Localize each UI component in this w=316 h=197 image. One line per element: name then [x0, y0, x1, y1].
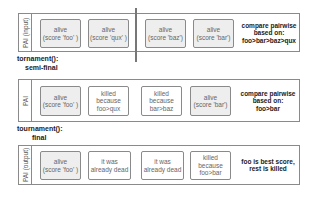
cell-qux: alive (score 'qux' )	[88, 19, 129, 48]
cell-text: killed because foo>qux	[96, 90, 121, 113]
cell-bar: alive (score 'bar')	[190, 86, 231, 116]
cell-foo: alive (score 'foo' )	[40, 151, 81, 180]
caption-semi-final-stage: semi-final	[25, 64, 58, 71]
cell-bar: alive (score 'bar')	[193, 19, 234, 48]
cell-text: killed because bar>baz	[149, 90, 174, 113]
cell-text: alive (score 'bar')	[197, 26, 231, 41]
cell-text: alive (score 'bar')	[194, 94, 228, 109]
row-input: PAI (input) alive (score 'foo' ) alive (…	[18, 13, 300, 52]
cell-text: alive (score 'foo' )	[43, 26, 78, 41]
cell-bar: killed because foo>bar	[190, 151, 231, 180]
cell-text: alive (score 'foo' )	[43, 158, 78, 173]
row-note: foo is best score, rest is killed	[235, 149, 301, 181]
row-note: compare pairwise based on: foo>bar	[235, 84, 301, 118]
cell-text: it was already dead	[91, 158, 129, 173]
cell-qux: it was already dead	[88, 151, 131, 180]
row-label-text: PAI	[22, 96, 29, 106]
caption-semi-final-fn: tornament():	[17, 55, 58, 62]
cell-text: killed because foo>bar	[198, 154, 223, 177]
cell-text: it was already dead	[144, 158, 182, 173]
cell-text: alive (score 'qux' )	[90, 26, 127, 41]
row-semi-final: PAI alive (score 'foo' ) killed because …	[18, 79, 300, 122]
note-text: foo is best score, rest is killed	[241, 158, 294, 173]
caption-final-stage: final	[32, 134, 46, 141]
row-label-output: PAI (output)	[19, 146, 32, 184]
cell-baz: killed because bar>baz	[141, 86, 182, 116]
cell-baz: alive (score 'baz')	[145, 19, 186, 48]
split-divider	[135, 8, 137, 62]
row-label-text: PAI (output)	[22, 148, 29, 182]
cell-baz: it was already dead	[141, 151, 184, 180]
row-label-semi: PAI	[19, 80, 32, 121]
row-label-input: PAI (input)	[19, 14, 32, 51]
cell-foo: alive (score 'foo' )	[40, 19, 81, 48]
row-output: PAI (output) alive (score 'foo' ) it was…	[18, 145, 300, 185]
row-note: compare pairwise based on: foo>bar>baz>q…	[237, 16, 301, 50]
note-text: compare pairwise based on: foo>bar>baz>q…	[242, 22, 297, 45]
row-label-text: PAI (input)	[22, 17, 29, 47]
cell-foo: alive (score 'foo' )	[40, 86, 81, 116]
note-text: compare pairwise based on: foo>bar	[241, 90, 296, 113]
cell-qux: killed because foo>qux	[88, 86, 129, 116]
cell-text: alive (score 'foo' )	[43, 94, 78, 109]
cell-text: alive (score 'baz')	[148, 26, 183, 41]
caption-final-fn: tournament():	[17, 125, 63, 132]
